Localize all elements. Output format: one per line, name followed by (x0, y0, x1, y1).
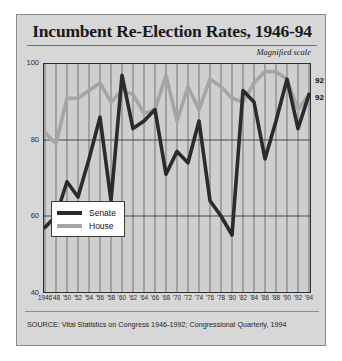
x-axis-tick-1974: '74 (195, 294, 203, 301)
x-axis-tick-1954: '54 (85, 294, 93, 301)
end-label-house: 92 (315, 76, 324, 85)
x-axis-tick-1986: '86 (261, 294, 269, 301)
chart-legend: Senate House (51, 201, 125, 237)
x-axis-tick-1970: '70 (173, 294, 181, 301)
x-axis-tick-1950: '50 (63, 294, 71, 301)
line-chart-svg (44, 64, 310, 292)
x-axis-tick-1978: '78 (217, 294, 225, 301)
magnified-scale-annotation: Magnified scale (256, 47, 311, 57)
x-axis-tick-1992: '92 (294, 294, 302, 301)
legend-item-senate: Senate (57, 206, 116, 219)
legend-label-house: House (89, 221, 114, 231)
x-axis-tick-1988: '88 (272, 294, 280, 301)
x-axis-tick-1966: '66 (151, 294, 159, 301)
x-axis-tick-1982: '82 (239, 294, 247, 301)
x-axis-tick-1946: 1946 (38, 294, 52, 301)
x-axis-labels: 1946'48'50'52'54'56'58'60'62'64'66'68'70… (43, 294, 311, 306)
source-divider (25, 311, 319, 312)
x-axis-tick-1984: '84 (250, 294, 258, 301)
y-axis-tick-60: 60 (31, 211, 39, 220)
x-axis-tick-1980: '80 (228, 294, 236, 301)
page-title: Incumbent Re-Election Rates, 1946-94 (17, 21, 327, 42)
x-axis-tick-1972: '72 (184, 294, 192, 301)
legend-item-house: House (57, 219, 116, 232)
x-axis-tick-1960: '60 (118, 294, 126, 301)
legend-swatch-house (57, 224, 82, 228)
legend-label-senate: Senate (89, 208, 116, 218)
source-note: SOURCE: Vital Statistics on Congress 194… (27, 320, 319, 329)
y-axis-tick-100: 100 (26, 58, 39, 67)
x-axis-tick-1956: '56 (96, 294, 104, 301)
x-axis-tick-1948: '48 (52, 294, 60, 301)
x-axis-tick-1952: '52 (74, 294, 82, 301)
end-label-senate: 92 (315, 93, 324, 102)
x-axis-tick-1976: '76 (206, 294, 214, 301)
plot-area (43, 63, 311, 293)
title-divider (27, 45, 317, 46)
plot-area-wrapper: 100 80 60 40 (43, 63, 311, 293)
x-axis-tick-1968: '68 (162, 294, 170, 301)
chart-card: Incumbent Re-Election Rates, 1946-94 Mag… (16, 14, 326, 346)
x-axis-tick-1994: '94 (305, 294, 313, 301)
legend-swatch-senate (57, 211, 82, 215)
x-axis-tick-1962: '62 (129, 294, 137, 301)
x-axis-tick-1958: '58 (107, 294, 115, 301)
x-axis-tick-1990: '90 (283, 294, 291, 301)
y-axis-tick-80: 80 (31, 135, 39, 144)
x-axis-tick-1964: '64 (140, 294, 148, 301)
